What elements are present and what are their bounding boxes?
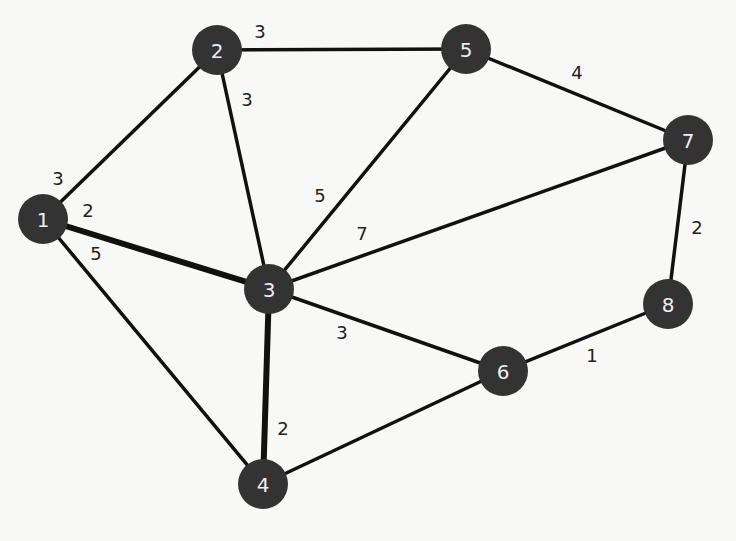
edge-3-6 [269, 289, 503, 371]
edge-weight-5-3: 5 [314, 185, 325, 206]
edge-3-4 [263, 289, 269, 484]
edge-2-3 [217, 50, 269, 289]
edge-2-5 [217, 49, 466, 50]
graph-diagram: 325335743212 12345678 [0, 0, 736, 541]
node-1: 1 [18, 194, 68, 244]
node-label: 1 [37, 208, 50, 232]
node-4: 4 [238, 459, 288, 509]
edge-1-3 [43, 219, 269, 289]
edge-weight-7-8: 2 [691, 217, 702, 238]
node-label: 7 [682, 129, 695, 153]
node-label: 4 [257, 473, 270, 497]
node-6: 6 [478, 346, 528, 396]
edges-layer [43, 49, 688, 484]
edge-weight-3-4: 2 [277, 418, 288, 439]
edge-1-4 [43, 219, 263, 484]
node-7: 7 [663, 115, 713, 165]
edge-weight-3-7: 7 [356, 223, 367, 244]
node-2: 2 [192, 25, 242, 75]
edge-weight-2-3: 3 [241, 89, 252, 110]
edge-weights-layer: 325335743212 [52, 21, 702, 439]
edge-1-2 [43, 50, 217, 219]
node-label: 8 [662, 293, 675, 317]
edge-4-6 [263, 371, 503, 484]
node-5: 5 [441, 24, 491, 74]
node-label: 6 [497, 360, 510, 384]
node-8: 8 [643, 279, 693, 329]
node-label: 5 [460, 38, 473, 62]
node-label: 3 [263, 278, 276, 302]
edge-weight-3-6: 3 [336, 322, 347, 343]
edge-weight-6-8: 1 [586, 345, 597, 366]
edge-weight-1-3: 2 [82, 200, 93, 221]
edge-weight-1-2: 3 [52, 168, 63, 189]
graph-svg: 325335743212 12345678 [0, 0, 736, 541]
edge-weight-1-4: 5 [90, 243, 101, 264]
edge-weight-5-7: 4 [571, 62, 582, 83]
edge-weight-2-5: 3 [254, 21, 265, 42]
node-3: 3 [244, 264, 294, 314]
node-label: 2 [211, 39, 224, 63]
